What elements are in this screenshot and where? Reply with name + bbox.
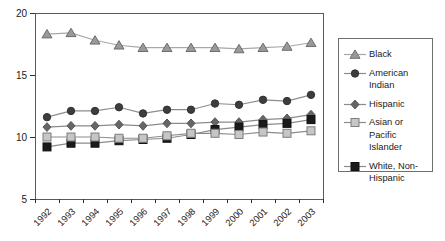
series-line xyxy=(47,131,311,138)
data-point-marker xyxy=(91,107,98,114)
circle-marker-icon xyxy=(344,68,366,79)
x-tick-label: 2001 xyxy=(248,206,270,228)
data-point-marker xyxy=(187,106,194,113)
data-point-marker xyxy=(259,96,266,103)
data-point-marker xyxy=(90,36,100,44)
legend-label: Asian or Pacific Islander xyxy=(369,116,430,154)
data-point-marker xyxy=(43,143,51,151)
data-point-marker xyxy=(259,121,267,129)
series-line xyxy=(47,95,311,117)
data-point-marker xyxy=(139,121,147,130)
y-tick-label: 10 xyxy=(16,132,28,143)
legend-label: American Indian xyxy=(369,67,430,92)
series-line xyxy=(47,33,311,49)
data-point-marker xyxy=(115,120,123,129)
data-point-marker xyxy=(351,162,359,170)
data-point-marker xyxy=(259,128,267,136)
x-tick-label: 1997 xyxy=(152,206,174,228)
x-tick-label: 1996 xyxy=(128,206,150,228)
data-point-marker xyxy=(43,123,51,132)
data-point-marker xyxy=(91,121,99,130)
x-tick-label: 1994 xyxy=(80,206,102,228)
y-axis: 5101520 xyxy=(16,8,35,205)
chart-figure: 5101520199219931994199519961997199819992… xyxy=(0,0,445,241)
x-tick-label: 1995 xyxy=(104,206,126,228)
y-tick-label: 5 xyxy=(21,194,27,205)
legend-label: White, Non-Hispanic xyxy=(369,160,430,185)
data-point-marker xyxy=(351,100,359,109)
data-point-marker xyxy=(91,133,99,141)
square-marker-icon xyxy=(344,161,366,172)
series-white-non-hispanic xyxy=(43,116,315,151)
x-tick-label: 1993 xyxy=(56,206,78,228)
data-point-marker xyxy=(187,129,195,137)
y-tick-label: 15 xyxy=(16,70,28,81)
diamond-marker-icon xyxy=(344,99,366,110)
plot-border xyxy=(35,13,323,199)
data-point-marker xyxy=(307,116,315,124)
data-point-marker xyxy=(163,132,171,140)
data-point-marker xyxy=(115,104,122,111)
x-tick-label: 1998 xyxy=(176,206,198,228)
data-point-marker xyxy=(139,134,147,142)
x-tick-label: 1992 xyxy=(32,206,54,228)
series-hispanic xyxy=(43,110,315,131)
legend-label: Hispanic xyxy=(369,98,430,111)
legend-item-black: Black xyxy=(344,48,430,61)
x-axis: 1992199319941995199619971998199920002001… xyxy=(32,199,323,228)
square-marker-icon xyxy=(344,117,366,128)
y-tick-label: 20 xyxy=(16,8,28,19)
data-point-marker xyxy=(43,133,51,141)
legend-item-american-indian: American Indian xyxy=(344,67,430,92)
series-line xyxy=(47,115,311,127)
data-point-marker xyxy=(67,121,75,130)
data-point-marker xyxy=(283,119,291,127)
data-point-marker xyxy=(163,106,170,113)
data-point-marker xyxy=(283,97,290,104)
x-tick-label: 2000 xyxy=(224,206,246,228)
series-asian-or-pacific-islander xyxy=(43,127,315,142)
x-tick-label: 2003 xyxy=(296,206,318,228)
data-point-marker xyxy=(43,113,50,120)
data-point-marker xyxy=(235,123,243,131)
data-point-marker xyxy=(307,91,314,98)
legend: BlackAmerican IndianHispanicAsian or Pac… xyxy=(338,38,433,172)
data-point-marker xyxy=(351,69,358,76)
data-point-marker xyxy=(67,133,75,141)
data-point-marker xyxy=(307,127,315,135)
x-tick-label: 2002 xyxy=(272,206,294,228)
data-point-marker xyxy=(211,129,219,137)
data-point-marker xyxy=(163,119,171,128)
legend-item-asian-or-pacific-islander: Asian or Pacific Islander xyxy=(344,116,430,154)
triangle-marker-icon xyxy=(344,49,366,60)
data-point-marker xyxy=(67,107,74,114)
series-american-indian xyxy=(43,91,314,121)
legend-item-hispanic: Hispanic xyxy=(344,98,430,111)
data-point-marker xyxy=(211,100,218,107)
data-point-marker xyxy=(235,131,243,139)
data-point-marker xyxy=(139,110,146,117)
data-point-marker xyxy=(351,119,359,127)
data-point-marker xyxy=(306,38,316,46)
x-tick-label: 1999 xyxy=(200,206,222,228)
legend-label: Black xyxy=(369,48,430,61)
data-point-marker xyxy=(235,101,242,108)
series-black xyxy=(42,28,316,53)
data-point-marker xyxy=(187,119,195,128)
data-point-marker xyxy=(115,134,123,142)
data-point-marker xyxy=(283,129,291,137)
legend-item-white-non-hispanic: White, Non-Hispanic xyxy=(344,160,430,185)
